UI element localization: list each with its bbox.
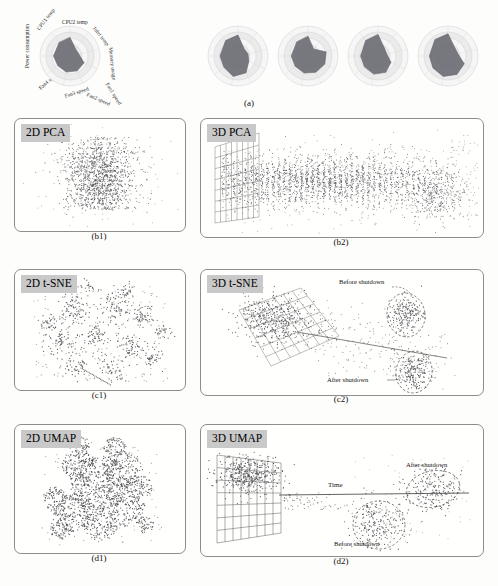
figure-root: CPU2 temp Inlet temp Memory usage Fan1 s… <box>0 0 498 586</box>
radar-label-memory-usage: Memory usage <box>107 47 116 80</box>
panel-b2-3d-pca[interactable]: 3D PCA <box>200 118 484 238</box>
caption-b1: (b1) <box>69 231 129 241</box>
caption-a: (a) <box>199 98 299 108</box>
panel-label-3d-pca: 3D PCA <box>207 124 256 142</box>
panel-c2-3d-tsne[interactable]: 3D t-SNE Before shutdown After shutdown <box>200 269 484 396</box>
annotation-before-shutdown-c2: Before shutdown <box>339 278 384 285</box>
caption-c2: (c2) <box>311 394 371 404</box>
caption-b2: (b2) <box>311 237 371 247</box>
radar-chart-t5 <box>410 18 486 94</box>
radar-label-fan2-speed: Fan2 speed <box>86 92 111 107</box>
panel-label-2d-umap: 2D UMAP <box>21 430 81 448</box>
panel-b1-2d-pca[interactable]: 2D PCA <box>14 118 186 232</box>
radar-label-power-consumption: Power consumption <box>25 24 31 68</box>
caption-c1: (c1) <box>69 390 129 400</box>
radar-chart-t4 <box>340 18 416 94</box>
panel-label-2d-pca: 2D PCA <box>21 124 70 142</box>
radar-chart-t2 <box>200 18 276 94</box>
caption-d1: (d1) <box>69 553 129 563</box>
annotation-after-shutdown-d2: After shutdown <box>406 461 447 468</box>
axis-label-time-d2: Time <box>328 481 343 489</box>
panel-label-3d-umap: 3D UMAP <box>207 430 267 448</box>
panel-a-radar-row: CPU2 temp Inlet temp Memory usage Fan1 s… <box>0 4 498 100</box>
panel-label-3d-tsne: 3D t-SNE <box>207 275 263 293</box>
annotation-after-shutdown-c2: After shutdown <box>327 376 368 383</box>
panel-d2-3d-umap[interactable]: 3D UMAP Time After shutdown Before shutd… <box>200 424 484 557</box>
annotation-before-shutdown-d2: Before shutdown <box>334 540 379 547</box>
caption-d2: (d2) <box>311 556 371 566</box>
panel-d1-2d-umap[interactable]: 2D UMAP <box>14 424 186 554</box>
radar-chart-t3 <box>270 18 346 94</box>
radar-chart-t1 <box>32 18 108 94</box>
panel-label-2d-tsne: 2D t-SNE <box>21 275 77 293</box>
panel-c1-2d-tsne[interactable]: 2D t-SNE <box>14 269 186 391</box>
